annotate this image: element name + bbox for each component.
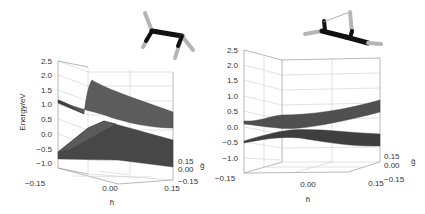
left-z-axis-label: Energy/eV (18, 93, 27, 131)
right-y-tick-min: −0.15 (384, 175, 405, 184)
svg-text:0.0: 0.0 (227, 123, 239, 132)
left-y-tick-min: −0.15 (178, 177, 199, 186)
svg-text:−0.5: −0.5 (222, 138, 238, 147)
left-x-tick-mid: 0.00 (102, 184, 118, 193)
right-molecule-icon (305, 12, 381, 44)
right-y-axis-label: ḡ (411, 157, 415, 166)
svg-text:2.0: 2.0 (41, 71, 53, 80)
right-x-tick-mid: 0.00 (300, 180, 316, 189)
svg-text:−0.5: −0.5 (36, 145, 52, 154)
svg-text:−1.0: −1.0 (222, 154, 238, 163)
figure: 2.5 2.0 1.5 1.0 0.5 0.0 −0.5 −1.0 Energy… (0, 0, 425, 214)
left-z-ticks: 2.5 2.0 1.5 1.0 0.5 0.0 −0.5 −1.0 (36, 57, 52, 168)
left-x-tick-min: −0.15 (25, 179, 46, 188)
right-x-tick-max: 0.15 (368, 179, 384, 188)
svg-text:1.5: 1.5 (41, 86, 53, 95)
left-x-axis-label: h̄ (110, 198, 114, 207)
svg-text:1.5: 1.5 (227, 76, 239, 85)
right-x-axis-label: h̄ (306, 195, 310, 204)
svg-text:0.5: 0.5 (41, 115, 53, 124)
left-plot: 2.5 2.0 1.5 1.0 0.5 0.0 −0.5 −1.0 Energy… (18, 57, 204, 207)
svg-text:2.5: 2.5 (227, 46, 239, 55)
left-upper-surface-lip (58, 100, 84, 114)
svg-text:1.0: 1.0 (41, 100, 53, 109)
svg-text:−1.0: −1.0 (36, 159, 52, 168)
svg-text:1.0: 1.0 (227, 92, 239, 101)
right-lower-surface (244, 130, 380, 147)
right-y-tick-mid: 0.00 (384, 161, 400, 170)
left-molecule-icon (143, 13, 193, 58)
right-x-tick-min: −0.15 (215, 174, 236, 183)
left-y-tick-mid: 0.00 (178, 165, 194, 174)
right-z-ticks: 2.5 2.0 1.5 1.0 0.5 0.0 −0.5 −1.0 (222, 46, 238, 163)
svg-text:2.5: 2.5 (41, 57, 53, 66)
svg-text:2.0: 2.0 (227, 61, 239, 70)
left-y-axis-label: ḡ (200, 161, 204, 170)
left-upper-surface (58, 80, 173, 128)
svg-text:0.5: 0.5 (227, 107, 239, 116)
svg-text:0.0: 0.0 (41, 130, 53, 139)
right-y-tick-max: 0.15 (384, 152, 400, 161)
right-plot: 2.5 2.0 1.5 1.0 0.5 0.0 −0.5 −1.0 −0.15 … (215, 46, 416, 204)
